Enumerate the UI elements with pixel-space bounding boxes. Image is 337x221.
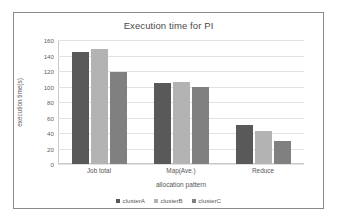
legend-swatch-icon xyxy=(192,199,196,203)
bar[interactable] xyxy=(173,82,190,164)
legend-swatch-icon xyxy=(116,199,120,203)
y-axis-tick-label: 160 xyxy=(44,37,54,44)
x-axis-title: allocation pattern xyxy=(58,181,304,188)
bar[interactable] xyxy=(91,49,108,164)
y-axis-tick-label: 100 xyxy=(44,83,54,90)
bar[interactable] xyxy=(110,72,127,164)
chart-title: Execution time for PI xyxy=(14,20,323,31)
y-axis-tick-label: 40 xyxy=(47,130,54,137)
legend-label: clusterC xyxy=(198,197,221,204)
x-axis-category-labels: Job totalMap(Ave.)Reduce xyxy=(58,167,304,179)
bar-group xyxy=(58,40,140,164)
x-axis-category-label: Job total xyxy=(58,167,140,179)
legend-label: clusterA xyxy=(123,197,145,204)
legend-item[interactable]: clusterC xyxy=(192,197,221,204)
y-axis-tick-label: 120 xyxy=(44,68,54,75)
x-axis-category-label: Map(Ave.) xyxy=(140,167,222,179)
legend-item[interactable]: clusterB xyxy=(154,197,183,204)
y-axis-tick-labels: 020406080100120140160 xyxy=(14,40,58,164)
legend-item[interactable]: clusterA xyxy=(116,197,145,204)
bar[interactable] xyxy=(255,131,272,164)
legend-swatch-icon xyxy=(154,199,158,203)
bar[interactable] xyxy=(72,52,89,164)
chart-frame: Execution time for PI execution time(s) … xyxy=(13,12,324,209)
bar[interactable] xyxy=(236,125,253,164)
chart-legend: clusterAclusterBclusterC xyxy=(14,197,323,204)
bar[interactable] xyxy=(192,87,209,164)
y-axis-tick-label: 0 xyxy=(51,161,54,168)
y-axis-tick-label: 60 xyxy=(47,114,54,121)
legend-label: clusterB xyxy=(160,197,182,204)
bar[interactable] xyxy=(274,141,291,164)
bar-groups xyxy=(58,40,304,164)
x-axis-category-label: Reduce xyxy=(222,167,304,179)
bar-group xyxy=(222,40,304,164)
y-axis-tick-label: 140 xyxy=(44,52,54,59)
gridline xyxy=(58,164,304,165)
y-axis-tick-label: 80 xyxy=(47,99,54,106)
bar[interactable] xyxy=(154,83,171,164)
y-axis-tick-label: 20 xyxy=(47,145,54,152)
bar-group xyxy=(140,40,222,164)
